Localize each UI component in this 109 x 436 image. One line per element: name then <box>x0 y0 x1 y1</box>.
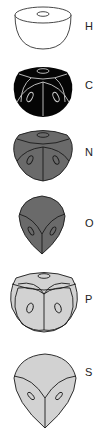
label-n: N <box>85 146 93 158</box>
label-c: C <box>85 79 93 91</box>
label-s: S <box>85 366 92 378</box>
rounded-tetra-shape-o <box>16 194 68 256</box>
label-p: P <box>85 293 92 305</box>
label-o: O <box>85 217 94 229</box>
rounded-cube-shape-p <box>8 268 80 334</box>
hemisphere-shape-h <box>12 3 74 51</box>
rounded-cube-shape-c <box>11 62 75 118</box>
rounded-tetra-shape-s <box>11 352 79 430</box>
rounded-cube-shape-n <box>11 127 75 183</box>
label-h: H <box>85 20 93 32</box>
